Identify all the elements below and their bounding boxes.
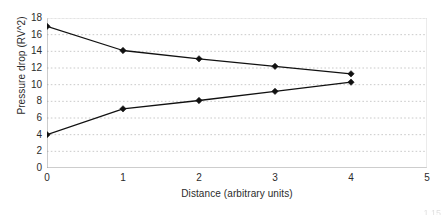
y-tick-label-4: 4 — [20, 130, 42, 140]
chart-svg — [47, 18, 427, 168]
data-point-upper-branch-3 — [272, 63, 278, 69]
data-point-upper-branch-4 — [348, 71, 354, 77]
data-point-lower-branch-2 — [196, 97, 202, 103]
x-axis-tick-labels: 012345 — [0, 172, 443, 186]
data-point-lower-branch-3 — [272, 88, 278, 94]
y-tick-label-12: 12 — [20, 63, 42, 73]
x-tick-label-4: 4 — [338, 172, 364, 183]
series-line-upper-branch — [47, 26, 351, 73]
y-tick-label-2: 2 — [20, 146, 42, 156]
data-point-lower-branch-0 — [47, 131, 50, 137]
pressure-drop-chart-figure: Pressure drop (RV^2) 024681012141618 012… — [0, 0, 443, 215]
y-tick-label-6: 6 — [20, 113, 42, 123]
y-tick-label-8: 8 — [20, 96, 42, 106]
plot-area — [47, 18, 427, 168]
x-tick-label-0: 0 — [34, 172, 60, 183]
gridlines — [47, 18, 427, 151]
data-point-upper-branch-0 — [47, 23, 50, 29]
y-tick-label-16: 16 — [20, 30, 42, 40]
axis-ticks — [47, 18, 427, 168]
x-tick-label-3: 3 — [262, 172, 288, 183]
axis-lines — [47, 18, 427, 168]
data-series-group — [47, 23, 354, 138]
data-point-lower-branch-1 — [120, 106, 126, 112]
page-edge-bleed: 1 15 — [0, 204, 443, 215]
x-axis-title: Distance (arbitrary units) — [47, 188, 427, 199]
x-tick-label-2: 2 — [186, 172, 212, 183]
data-point-upper-branch-2 — [196, 56, 202, 62]
x-tick-label-5: 5 — [414, 172, 440, 183]
bleed-text: 1 15 — [423, 208, 441, 215]
y-tick-label-10: 10 — [20, 80, 42, 90]
data-point-upper-branch-1 — [120, 47, 126, 53]
y-tick-label-14: 14 — [20, 46, 42, 56]
series-line-lower-branch — [47, 82, 351, 134]
x-tick-label-1: 1 — [110, 172, 136, 183]
y-tick-label-18: 18 — [20, 13, 42, 23]
